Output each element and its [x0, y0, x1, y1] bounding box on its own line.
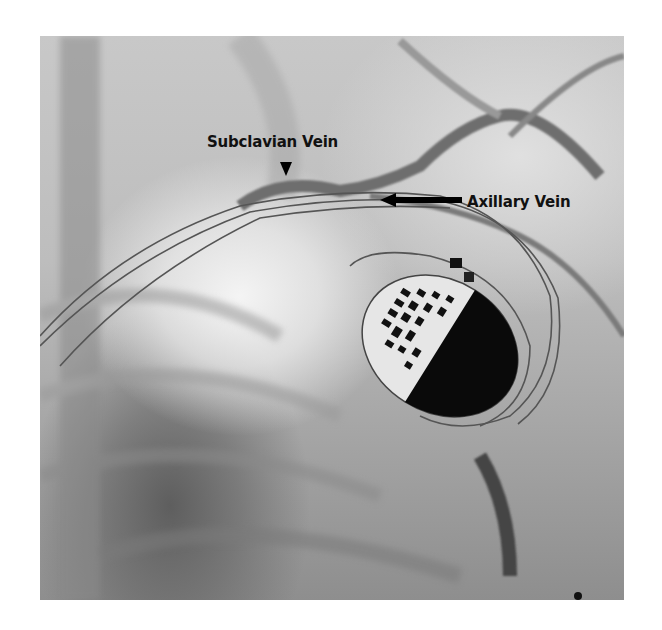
subclavian-vein-label: Subclavian Vein	[207, 133, 338, 151]
xray-rendering	[40, 36, 624, 600]
pacemaker-device	[335, 247, 544, 446]
marker-dot	[574, 592, 582, 600]
header-connector	[464, 272, 474, 282]
axillary-vein-label: Axillary Vein	[467, 193, 570, 211]
header-connector	[450, 258, 462, 268]
xray-image	[40, 36, 624, 600]
